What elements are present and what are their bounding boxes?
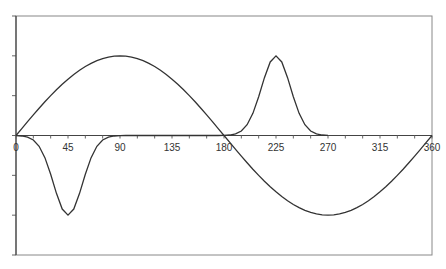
x-tick-label: 315 bbox=[372, 142, 389, 153]
x-tick-label: 45 bbox=[62, 142, 74, 153]
x-axis-tick-labels: 04590135180225270315360 bbox=[13, 142, 441, 153]
x-tick-label: 90 bbox=[114, 142, 126, 153]
x-tick-label: 0 bbox=[13, 142, 19, 153]
x-tick-label: 135 bbox=[164, 142, 181, 153]
x-tick-label: 225 bbox=[268, 142, 285, 153]
line-chart: 04590135180225270315360 bbox=[0, 0, 446, 269]
x-tick-label: 270 bbox=[320, 142, 337, 153]
